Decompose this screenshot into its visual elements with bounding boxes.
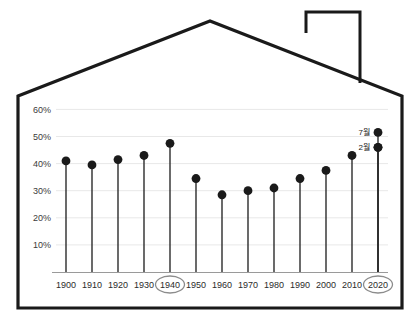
y-axis-tick-label: 50% <box>33 132 51 142</box>
x-axis-tick-label: 1910 <box>82 280 102 290</box>
data-point-marker <box>322 166 331 175</box>
point-annotation-label: 2월 <box>359 142 370 152</box>
point-annotation-label: 7월 <box>359 127 370 137</box>
data-point-marker <box>348 151 357 160</box>
x-axis-tick-label: 1970 <box>238 280 258 290</box>
data-point-marker <box>374 128 383 137</box>
x-axis-tick-label: 1980 <box>264 280 284 290</box>
x-axis-tick-label: 1990 <box>290 280 310 290</box>
x-axis-tick-label: 1900 <box>56 280 76 290</box>
data-point-marker <box>166 139 175 148</box>
data-point-marker <box>140 151 149 160</box>
x-axis-tick-label: 1960 <box>212 280 232 290</box>
x-axis-labels: 1900191019201930194019501960197019801990… <box>56 280 388 290</box>
data-point-marker <box>296 174 305 183</box>
chimney-icon <box>306 12 360 83</box>
y-axis-tick-label: 60% <box>33 105 51 115</box>
x-axis-tick-label: 1950 <box>186 280 206 290</box>
x-axis-tick-label: 2020 <box>368 280 388 290</box>
data-point-marker <box>114 155 123 164</box>
x-axis-tick-label: 1940 <box>160 280 180 290</box>
data-point-marker <box>374 143 383 152</box>
stem-series <box>62 128 383 272</box>
data-point-marker <box>218 190 227 199</box>
y-axis-tick-label: 10% <box>33 240 51 250</box>
x-axis-tick-label: 1930 <box>134 280 154 290</box>
x-axis-tick-label: 1920 <box>108 280 128 290</box>
data-point-marker <box>62 157 71 166</box>
y-axis-tick-label: 20% <box>33 213 51 223</box>
data-point-marker <box>88 161 97 170</box>
data-point-marker <box>244 186 253 195</box>
chart-canvas: 60%50%40%30%20%10% 190019101920193019401… <box>0 0 420 327</box>
data-point-marker <box>270 184 279 193</box>
y-axis-labels: 60%50%40%30%20%10% <box>33 105 51 250</box>
x-axis-tick-label: 2010 <box>342 280 362 290</box>
point-annotations: 7월2월 <box>359 127 370 152</box>
house-shaped-stem-chart: 60%50%40%30%20%10% 190019101920193019401… <box>0 0 420 327</box>
y-axis-tick-label: 30% <box>33 186 51 196</box>
y-axis-tick-label: 40% <box>33 159 51 169</box>
data-point-marker <box>192 174 201 183</box>
house-body-outline <box>18 21 402 308</box>
house-outline-group <box>18 12 402 308</box>
x-axis-tick-label: 2000 <box>316 280 336 290</box>
